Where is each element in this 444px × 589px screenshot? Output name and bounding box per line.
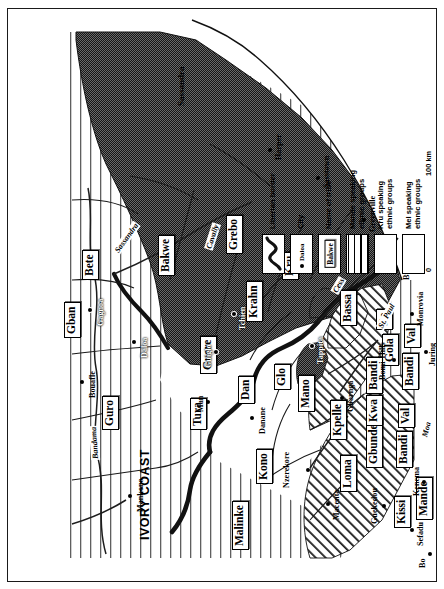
legend-label-kru: Kru speaking ethnic groups	[377, 178, 394, 228]
city-dot-danane	[250, 416, 254, 420]
tribe-label-guro[interactable]: Guro	[102, 396, 119, 430]
scale-label-end: 100 km	[424, 150, 433, 175]
tribe-label-vai-2[interactable]: Val	[404, 323, 421, 347]
city-dot-juring	[424, 350, 428, 354]
river-label-bandama: Bandama	[88, 425, 99, 460]
city-label-gbarnga: Gbarnga	[346, 380, 355, 411]
legend-swatch-mel	[402, 234, 425, 274]
legend-label-city: City	[297, 214, 306, 228]
legend-row-name-of-tribe: Bakwe Name of tribe	[318, 180, 341, 274]
city-dot-sasstown	[316, 176, 320, 180]
city-label-bouafle: Bouafle	[88, 371, 97, 398]
city-dot-gbarnga	[340, 396, 344, 400]
tribe-label-vai-1[interactable]: Val	[398, 403, 415, 427]
legend-swatch-mande	[346, 234, 369, 274]
city-dot-guiglo	[214, 350, 218, 354]
city-dot-sefadu	[410, 528, 414, 532]
city-label-nzerekore: Nzerekore	[282, 451, 291, 487]
scale-bar: 0 100 km	[434, 152, 438, 272]
tribe-label-krahn[interactable]: Krahn	[246, 281, 263, 322]
city-dot-bouafle	[80, 380, 84, 384]
city-dot-man	[206, 400, 210, 404]
rotated-map-container: IVORY COAST Malinke Kono Tura Guro Gban …	[10, 11, 435, 580]
city-label-harper: Harper	[274, 134, 283, 160]
city-dot-bo	[428, 552, 432, 556]
city-dot-guekedou	[382, 504, 386, 508]
legend-label-mel: Mel speaking ethnic groups	[405, 178, 422, 228]
tribe-label-bandi-3[interactable]: Bandi	[402, 352, 419, 389]
map-canvas: IVORY COAST Malinke Kono Tura Guro Gban …	[10, 11, 435, 580]
city-label-sefadu: Sefadu	[416, 521, 425, 545]
city-dot-macenta	[326, 502, 330, 506]
tribe-label-bandi-2[interactable]: Bandi	[396, 430, 413, 467]
legend-sample-city: Daloa	[297, 243, 305, 261]
legend-swatch-border	[262, 234, 285, 274]
legend-swatch-tribe: Bakwe	[318, 234, 341, 274]
city-label-macenta: Macenta	[332, 489, 341, 519]
mande-pattern-icon	[347, 235, 368, 273]
city-label-guiglo: Guiglo	[204, 344, 213, 368]
city-label-daloa: Daloa	[140, 337, 149, 357]
border-line-icon	[263, 235, 284, 273]
city-dot-icon	[299, 264, 303, 268]
tribe-label-kpelle[interactable]: Kpelle	[330, 400, 347, 440]
tribe-label-gban[interactable]: Gban	[64, 302, 81, 338]
legend-row-city: Daloa City	[290, 214, 313, 273]
tribe-label-kono[interactable]: Kono	[256, 449, 273, 484]
city-dot-harper	[268, 148, 272, 152]
tribe-label-loma[interactable]: Loma	[340, 455, 357, 492]
tribe-label-bete[interactable]: Bete	[82, 250, 99, 280]
scale-tick-start	[436, 268, 438, 269]
legend-label-liberian-border: Liberian border	[269, 173, 278, 229]
map-frame: IVORY COAST Malinke Kono Tura Guro Gban …	[7, 8, 437, 582]
legend-row-kru: Kru speaking ethnic groups	[374, 178, 397, 273]
legend-row-mel: Mel speaking ethnic groups	[402, 178, 425, 273]
legend-swatch-city: Daloa	[290, 234, 313, 274]
city-label-guekedou: Guekedou	[370, 488, 379, 524]
tribe-label-grebo[interactable]: Grebo	[226, 214, 243, 253]
city-dot-tchien	[232, 312, 236, 316]
city-dot-kenema	[422, 480, 426, 484]
city-dot-gagnoa	[88, 308, 92, 312]
scale-label-start: 0	[424, 267, 433, 271]
tribe-label-malinke[interactable]: Malinke	[232, 501, 249, 550]
city-dot-tappita	[310, 344, 314, 348]
tribe-label-kissi[interactable]: Kissi	[394, 495, 411, 527]
city-label-kenema: Kenema	[412, 466, 421, 495]
city-dot-monrovia	[410, 312, 414, 316]
coast-label-sassandra: Sassandra	[176, 66, 186, 106]
city-dot-mankono	[128, 494, 132, 498]
tribe-label-dan[interactable]: Dan	[238, 375, 255, 403]
tribe-label-bassa[interactable]: Bassa	[340, 289, 357, 325]
tribe-label-gbunde[interactable]: Gbunde	[366, 420, 383, 468]
city-label-monrovia: Monrovia	[416, 291, 425, 325]
city-label-mankono: Mankono	[136, 478, 145, 512]
legend-row-liberian-border: Liberian border	[262, 173, 285, 274]
city-dot-daloa	[132, 340, 136, 344]
city-label-juring: Juring	[428, 342, 437, 365]
city-label-bomi-hills: Bomi-Hills	[378, 342, 387, 380]
city-label-danane: Danane	[258, 407, 267, 434]
tribe-label-glo[interactable]: Glo	[274, 364, 291, 390]
city-label-bo: Bo	[418, 558, 427, 568]
city-dot-bomi-hills	[392, 358, 396, 362]
scale-tick-end	[436, 158, 438, 159]
tribe-label-kwa[interactable]: Kwa	[366, 395, 383, 426]
city-dot-nzerekore	[306, 468, 310, 472]
legend-sample-tribe: Bakwe	[324, 240, 335, 268]
map-page: IVORY COAST Malinke Kono Tura Guro Gban …	[0, 0, 444, 589]
city-label-tappita: Tappita	[316, 336, 325, 363]
legend-row-mande: Mande speaking ethnic groups	[346, 169, 369, 273]
legend-label-mande: Mande speaking ethnic groups	[349, 169, 366, 228]
legend-swatch-kru	[374, 234, 397, 274]
legend-label-name-of-tribe: Name of tribe	[325, 180, 334, 229]
city-label-tchien: Tchien	[238, 306, 247, 329]
tribe-label-bakwe[interactable]: Bakwe	[158, 234, 175, 275]
tribe-label-mano[interactable]: Mano	[298, 375, 315, 412]
city-label-gagnoa: Gagnoa	[96, 298, 105, 325]
city-label-man: Man	[196, 395, 205, 411]
